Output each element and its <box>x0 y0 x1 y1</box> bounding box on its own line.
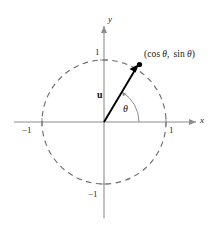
x-axis-arrowhead <box>189 119 196 125</box>
angle-arc-arrowhead <box>122 92 127 96</box>
point-coordinate-label: (cos θ,sin θ) <box>144 50 195 60</box>
angle-label-theta: θ <box>123 104 128 114</box>
figure-canvas <box>0 0 219 226</box>
point-label-paren-open: (cos <box>144 49 162 59</box>
y-axis-arrowhead <box>101 26 107 33</box>
point-label-paren-close: ) <box>192 49 195 59</box>
tick-label-x-negative: −1 <box>22 126 32 135</box>
y-axis-label: y <box>108 15 112 24</box>
unit-circle-figure: y x 1 −1 −1 1 u θ (cos θ,sin θ) <box>0 0 219 226</box>
vector-u <box>104 64 139 122</box>
tick-label-x-positive: 1 <box>169 126 174 135</box>
vector-u-shaft <box>104 70 135 122</box>
x-axis-label: x <box>200 116 204 125</box>
point-label-sin: sin <box>174 49 187 59</box>
point-label-comma: , <box>167 49 169 59</box>
tick-label-y-positive: 1 <box>95 48 100 57</box>
tick-label-y-negative: −1 <box>88 190 98 199</box>
terminal-point-marker <box>137 62 142 67</box>
vector-label-u: u <box>97 90 103 100</box>
